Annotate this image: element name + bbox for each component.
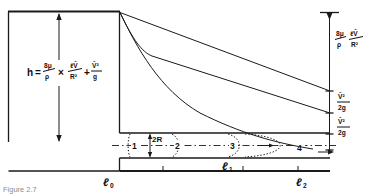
equation-term1-denominator: ρ bbox=[45, 73, 49, 81]
diameter-label: 2R bbox=[152, 135, 162, 144]
profile-flow-arrowhead bbox=[269, 143, 274, 147]
length-2-subscript: 2 bbox=[303, 182, 307, 189]
friction-head-den-left: ρ bbox=[337, 41, 341, 49]
equation-times: × bbox=[58, 67, 64, 78]
velocity-head-upper-den: 2g bbox=[338, 104, 346, 112]
equation-term3-denominator: g bbox=[93, 73, 97, 81]
head-arrowhead-down bbox=[56, 135, 61, 142]
equation-term2-numerator: ℓV̄ bbox=[70, 61, 78, 69]
figure-caption: Figure 2.7 bbox=[3, 185, 37, 194]
right-axis-arrowhead bbox=[327, 13, 333, 20]
friction-head-num-right: ℓV̄ bbox=[350, 29, 358, 37]
equation-term3-numerator: V̄² bbox=[92, 61, 99, 69]
friction-head-num-left: 8μ bbox=[336, 30, 344, 38]
annotation-velocity-head-upper: V̄² 2g bbox=[337, 92, 350, 112]
hydraulic-grade-line bbox=[120, 13, 330, 114]
length-0-symbol: ℓ bbox=[103, 176, 109, 188]
equation-term2-denominator: R² bbox=[70, 73, 78, 80]
length-1-symbol: ℓ bbox=[222, 160, 228, 172]
velocity-head-lower-den: 2g bbox=[338, 129, 346, 137]
length-labels: ℓ 0 ℓ 1 ℓ 2 bbox=[103, 160, 307, 189]
reservoir-tank bbox=[8, 12, 120, 172]
grade-lines bbox=[120, 13, 330, 150]
length-1-subscript: 1 bbox=[229, 166, 233, 173]
length-2-symbol: ℓ bbox=[296, 176, 302, 188]
equation-equals: = bbox=[35, 67, 41, 78]
station-1-label: 1 bbox=[132, 141, 137, 151]
equation-plus: + bbox=[84, 67, 90, 78]
head-arrowhead-up bbox=[56, 13, 61, 20]
equation-lhs: h bbox=[27, 67, 33, 78]
velocity-head-upper-num: V̄² bbox=[338, 92, 345, 100]
length-0-subscript: 0 bbox=[110, 182, 114, 189]
station-3-label: 3 bbox=[230, 141, 235, 151]
annotation-velocity-head-lower: V̄² 2g bbox=[337, 117, 350, 137]
friction-head-den-right: R² bbox=[351, 41, 359, 48]
developing-flow-line bbox=[120, 13, 313, 150]
velocity-head-lower-num: V̄² bbox=[338, 117, 345, 125]
station-4-label: 4 bbox=[297, 143, 302, 153]
annotation-friction-head: 8μ ρ ℓV̄ R² bbox=[335, 29, 363, 49]
pipe-flow-diagram: h = 8μ ρ × ℓV̄ R² + V̄² g bbox=[0, 0, 367, 194]
figure-container: h = 8μ ρ × ℓV̄ R² + V̄² g bbox=[0, 0, 367, 194]
station-2-label: 2 bbox=[175, 141, 180, 151]
equation-term1-numerator: 8μ bbox=[44, 62, 52, 70]
diameter-arrowhead-down bbox=[148, 152, 152, 158]
